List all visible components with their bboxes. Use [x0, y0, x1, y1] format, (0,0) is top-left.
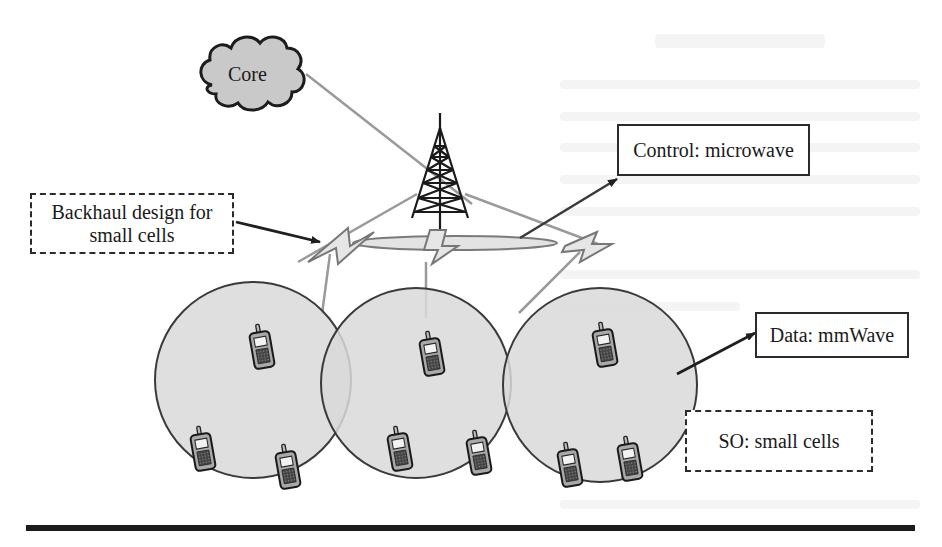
control-microwave-label: Control: microwave — [617, 124, 810, 176]
small-cells — [155, 282, 697, 482]
data-mmwave-label: Data: mmWave — [755, 312, 909, 358]
cell-tower-icon — [412, 113, 468, 230]
core-label: Core — [228, 63, 267, 86]
small-cell-right — [503, 288, 697, 482]
backhaul-design-label: Backhaul design for small cells — [30, 193, 234, 254]
backhaul-label-line2: small cells — [90, 224, 175, 247]
so-small-cells-label: SO: small cells — [685, 410, 873, 472]
so-label-text: SO: small cells — [718, 430, 839, 453]
control-label-text: Control: microwave — [633, 139, 794, 162]
backhaul-diagram: Core Control: microwave Backhaul design … — [0, 0, 942, 547]
bottom-rule-divider — [26, 525, 915, 531]
backhaul-arrow — [236, 222, 320, 242]
control-arrow — [520, 179, 617, 238]
lightning-bolt-right — [562, 232, 612, 262]
core-link-line — [306, 74, 472, 204]
backhaul-label-line1: Backhaul design for — [51, 201, 212, 224]
data-label-text: Data: mmWave — [770, 324, 894, 347]
